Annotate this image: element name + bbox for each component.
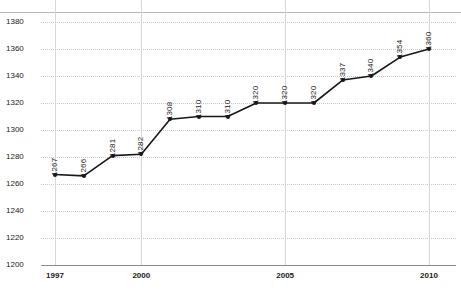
data-point-label: 1337 (338, 63, 347, 81)
x-axis-tick-label: 1997 (46, 271, 64, 280)
data-point-label: 1282 (136, 137, 145, 155)
data-point-label: 1308 (165, 102, 174, 120)
y-axis-tick-label: 1360 (6, 44, 36, 53)
chart-container: 1267126612811282130813101310132013201320… (0, 0, 461, 290)
y-axis-tick-label: 1220 (6, 233, 36, 242)
y-axis-tick-label: 1380 (6, 17, 36, 26)
data-point-label: 1320 (280, 86, 289, 104)
x-axis-tick-label: 2000 (132, 271, 150, 280)
y-axis-tick-label: 1280 (6, 152, 36, 161)
data-point-label: 1360 (424, 32, 433, 50)
title-divider (0, 12, 461, 13)
data-point-label: 1310 (223, 99, 232, 117)
data-point-label: 1281 (108, 138, 117, 156)
y-axis-tick-label: 1300 (6, 125, 36, 134)
y-axis-tick-label: 1240 (6, 206, 36, 215)
plot-area: 1267126612811282130813101310132013201320… (41, 22, 456, 265)
x-axis-tick-label: 2005 (276, 271, 294, 280)
gridline-horizontal (41, 265, 456, 266)
data-point-label: 1320 (251, 86, 260, 104)
data-point-label: 1310 (194, 99, 203, 117)
data-point-label: 1266 (79, 159, 88, 177)
data-point-label: 1320 (309, 86, 318, 104)
x-axis-tick-label: 2010 (420, 271, 438, 280)
data-point-label: 1267 (50, 157, 59, 175)
y-axis-tick-label: 1340 (6, 71, 36, 80)
y-axis-tick-label: 1260 (6, 179, 36, 188)
line-series (41, 22, 456, 265)
data-point-label: 1354 (395, 40, 404, 58)
y-axis-tick-label: 1320 (6, 98, 36, 107)
data-point-label: 1340 (366, 59, 375, 77)
y-axis-tick-label: 1200 (6, 260, 36, 269)
